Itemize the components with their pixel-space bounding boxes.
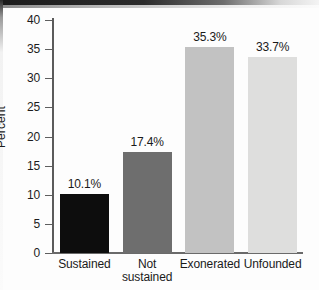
plot-area: 10.1%17.4%35.3%33.7% <box>52 20 303 253</box>
y-axis-tick-mark <box>45 20 52 21</box>
scan-edge-top-soft <box>0 5 319 8</box>
y-axis-tick-label: 0 <box>34 247 40 259</box>
y-axis-title: Percent <box>0 106 8 148</box>
bar-exonerated[interactable] <box>185 47 234 253</box>
bar-value-label: 33.7% <box>239 40 306 54</box>
y-axis-tick-mark <box>45 166 52 167</box>
bar-chart-figure: Percent 0510152025303540 10.1%17.4%35.3%… <box>0 0 319 290</box>
y-axis-tick-label: 15 <box>27 160 40 172</box>
y-axis-tick-mark <box>45 137 52 138</box>
y-axis-tick-label: 35 <box>27 43 40 55</box>
y-axis-tick-mark <box>45 253 52 254</box>
y-axis-tick-label: 25 <box>27 101 40 113</box>
y-axis-tick-label: 5 <box>34 218 40 230</box>
y-axis-tick-label: 30 <box>27 72 40 84</box>
y-axis-tick-mark <box>45 195 52 196</box>
y-axis-tick-mark <box>45 78 52 79</box>
y-axis-tick-mark <box>45 224 52 225</box>
bar-sustained[interactable] <box>60 194 109 253</box>
y-axis-tick-mark <box>45 107 52 108</box>
bar-value-label: 35.3% <box>176 30 243 44</box>
x-axis-label-line: Unfounded <box>234 258 311 271</box>
y-axis-tick-label: 20 <box>27 131 40 143</box>
bar-unfounded[interactable] <box>248 57 297 253</box>
x-axis-label-unfounded: Unfounded <box>234 258 311 271</box>
bar-not-sustained[interactable] <box>123 152 172 253</box>
x-axis-label-line: sustained <box>109 271 186 284</box>
bar-value-label: 10.1% <box>51 177 118 191</box>
bar-value-label: 17.4% <box>114 135 181 149</box>
y-axis-tick-label: 10 <box>27 189 40 201</box>
y-axis-tick-label: 40 <box>27 14 40 26</box>
y-axis-tick-mark <box>45 49 52 50</box>
